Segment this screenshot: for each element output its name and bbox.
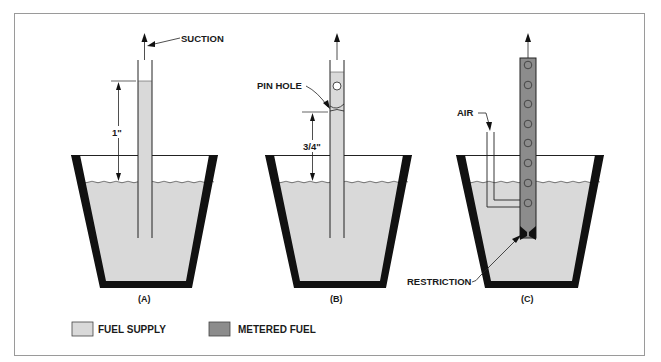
dimension-a-label: 1" [112,127,122,138]
panel-b-label: (B) [330,294,343,304]
panel-a-label: (A) [138,294,151,304]
panel-c-label: (C) [521,294,534,304]
restriction-label: RESTRICTION [407,276,472,287]
pin-hole-label: PIN HOLE [257,80,302,91]
air-label: AIR [457,107,474,118]
legend-swatch-metered-fuel [209,322,230,336]
air-bubble-icon [333,82,341,90]
metered-fuel-tube [520,58,536,238]
dimension-b-label: 3/4" [303,141,321,152]
legend-label-fuel-supply: FUEL SUPPLY [98,324,166,335]
tube-b-fluid [330,72,344,238]
tube-a-fluid [138,81,152,238]
legend-swatch-fuel-supply [72,322,93,336]
fuel-metering-diagram: SUCTION 1" (A) PIN HOLE [0,0,661,362]
legend-label-metered-fuel: METERED FUEL [238,324,316,335]
suction-label: SUCTION [181,33,224,44]
